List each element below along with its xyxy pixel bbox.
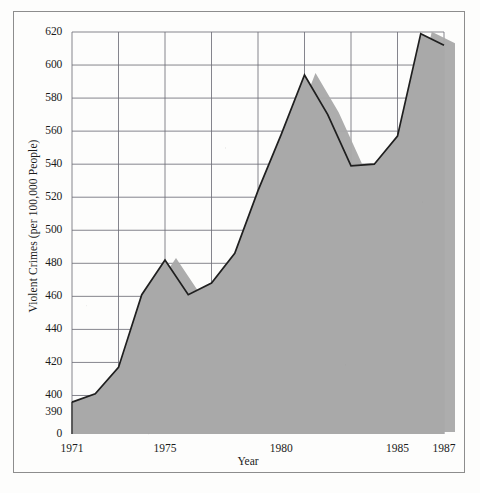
- x-axis-title: Year: [208, 455, 288, 467]
- x-tick-label: 1971: [52, 443, 92, 455]
- y-tick-label: 620: [28, 26, 62, 38]
- y-tick-label: 400: [28, 389, 62, 401]
- x-tick-label: 1985: [378, 443, 418, 455]
- y-tick-label: 600: [28, 59, 62, 71]
- y-tick-label: 0: [28, 428, 62, 440]
- chart-plot-svg: [0, 0, 480, 493]
- area-chart: 6206005805605405205004804604404204003900…: [0, 0, 480, 493]
- x-tick-label: 1980: [261, 443, 301, 455]
- x-tick-label: 1975: [145, 443, 185, 455]
- figure-page: 6206005805605405205004804604404204003900…: [0, 0, 480, 493]
- y-tick-label: 390: [28, 406, 62, 418]
- y-tick-label: 420: [28, 356, 62, 368]
- y-axis-title: Violent Crimes (per 100,000 People): [23, 101, 41, 351]
- y-axis-title-text: Violent Crimes (per 100,000 People): [27, 139, 39, 312]
- x-tick-label: 1987: [424, 443, 464, 455]
